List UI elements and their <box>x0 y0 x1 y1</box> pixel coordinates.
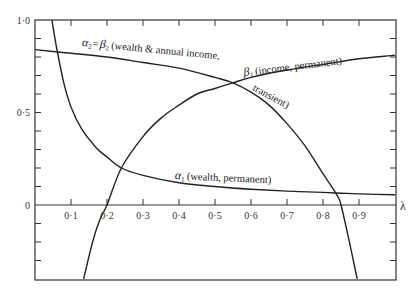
y-tick-label-1: 1·0 <box>17 15 30 26</box>
x-tick-label: 0·8 <box>316 210 329 221</box>
svg-text:α2=β2(wealth & annual income,: α2=β2(wealth & annual income, <box>81 35 220 63</box>
x-tick-label: 0·5 <box>208 210 221 221</box>
beta1-curve <box>84 55 395 279</box>
beta1-annotation: β1(income, permanent) <box>242 53 344 80</box>
x-axis-label: λ <box>400 199 406 213</box>
x-tick-label: 0·1 <box>64 210 77 221</box>
y-tick-label-0: 0 <box>25 200 30 211</box>
x-tick-label: 0·4 <box>172 210 185 221</box>
alpha2-beta2-annotation: α2=β2(wealth & annual income, <box>81 35 220 63</box>
alpha2-beta2-curve <box>35 50 357 279</box>
y-tick-label-05: 0·5 <box>17 107 30 118</box>
x-tick-label: 0·7 <box>280 210 293 221</box>
svg-text:β1(income, permanent): β1(income, permanent) <box>242 53 344 80</box>
chart-canvas: 0·10·20·30·40·50·60·70·80·9 1·0 0·5 0 λ … <box>0 0 418 294</box>
x-tick-label: 0·6 <box>244 210 257 221</box>
x-tick-label: 0·3 <box>136 210 149 221</box>
x-tick-label: 0·9 <box>352 210 365 221</box>
